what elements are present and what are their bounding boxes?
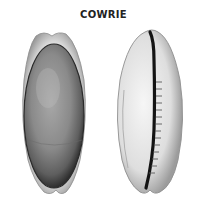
cowrie-ventral-view (117, 30, 182, 193)
illustration: COWRIE (0, 0, 207, 206)
cowrie-illustrations (0, 0, 207, 206)
cowrie-dorsal-view (23, 33, 86, 194)
